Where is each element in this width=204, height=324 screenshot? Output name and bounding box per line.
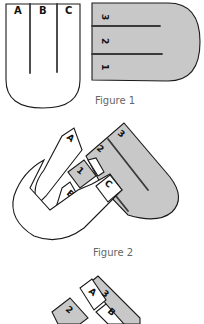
weaving-diagram: A B C 3 2 1 Figure 1 3 2 1: [0, 0, 204, 324]
strip-label-c: C: [65, 5, 72, 16]
figure-1-white-piece: A B C: [6, 4, 80, 108]
figure-2-caption: Figure 2: [93, 247, 133, 258]
strip-label-b: B: [39, 5, 47, 16]
strip-label-3: 3: [100, 14, 110, 20]
figure-1-gray-piece: 3 2 1: [92, 3, 200, 81]
figure-3: A 3 2 B: [52, 276, 140, 324]
figure-2: 3 2 1 A B C Figure 2: [13, 123, 179, 258]
strip-label-1: 1: [100, 64, 110, 70]
figure-1: A B C 3 2 1 Figure 1: [6, 3, 200, 108]
strip-label-a: A: [14, 5, 22, 16]
strip-label-2: 2: [100, 38, 110, 44]
figure-1-caption: Figure 1: [95, 95, 135, 106]
white-piece-outline: [6, 4, 80, 108]
